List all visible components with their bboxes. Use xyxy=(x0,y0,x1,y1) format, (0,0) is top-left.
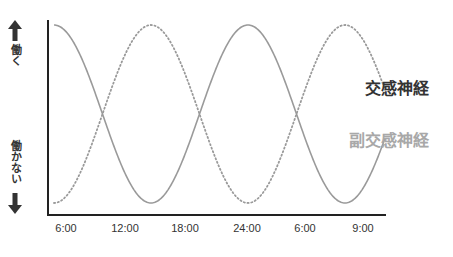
arrow-down-icon xyxy=(8,193,22,214)
x-tick-1: 12:00 xyxy=(111,222,139,234)
sympathetic-curve xyxy=(54,25,385,203)
parasympathetic-curve xyxy=(54,25,385,203)
x-tick-0: 6:00 xyxy=(55,222,76,234)
legend-parasympathetic: 副交感神経 xyxy=(349,127,429,151)
legend-sympathetic: 交感神経 xyxy=(365,75,429,99)
x-tick-4: 6:00 xyxy=(294,222,315,234)
arrow-up-icon xyxy=(8,20,22,41)
x-tick-3: 24:00 xyxy=(233,222,261,234)
y-bottom-label: 働かない xyxy=(9,140,22,184)
y-top-label: 働く xyxy=(9,44,22,66)
x-tick-2: 18:00 xyxy=(171,222,199,234)
x-tick-5: 9:00 xyxy=(352,222,373,234)
